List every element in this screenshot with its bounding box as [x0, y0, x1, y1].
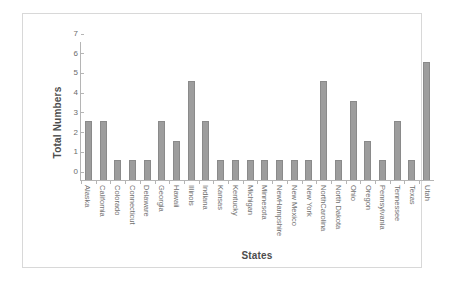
x-axis-tick-label-slot: Connecticut	[124, 183, 139, 247]
x-axis-tick-label-slot: Oregon	[360, 183, 375, 247]
x-axis-tick-label-slot: Tennessee	[390, 183, 405, 247]
y-axis-title-text: Total Numbers	[53, 86, 64, 158]
bar-slot	[331, 42, 346, 180]
x-axis-tick-label-slot: Georgia	[154, 183, 169, 247]
x-axis-tick-label: Hawaii	[172, 185, 180, 208]
x-axis-tick-label: Ohio	[349, 185, 357, 201]
y-axis-tick-label: 2	[74, 129, 81, 137]
x-axis-tick-label: Tennessee	[393, 185, 401, 221]
x-axis-tick-label: NewHampshire	[275, 185, 283, 236]
x-axis-tick-label: North Dakota	[334, 185, 342, 229]
x-axis-tick-label-slot: Illinois	[183, 183, 198, 247]
bar-slot	[316, 42, 331, 180]
y-axis-tick-mark	[81, 34, 84, 35]
x-axis-tick-label-slot: Michigan	[242, 183, 257, 247]
x-axis-tick-label: New Mexico	[290, 185, 298, 226]
x-axis-tick-label: Delaware	[143, 185, 151, 217]
x-axis-tick-label: California	[98, 185, 106, 217]
bar-slot	[140, 42, 155, 180]
x-axis-tick-label-slot: Utah	[419, 183, 434, 247]
bar-slot	[360, 42, 375, 180]
bar	[173, 141, 180, 180]
x-axis-tick-label-slot: Colorado	[110, 183, 125, 247]
bar	[114, 160, 121, 180]
bar-slot	[169, 42, 184, 180]
y-axis-tick: 5	[74, 69, 81, 77]
x-axis-tick-label: Connecticut	[128, 185, 136, 225]
x-axis-tick-label-slot: NorthCarolina	[316, 183, 331, 247]
bar	[408, 160, 415, 180]
bar-slot	[110, 42, 125, 180]
x-axis-tick-label-slot: Minnesota	[257, 183, 272, 247]
bar-slot	[257, 42, 272, 180]
y-axis-title: Total Numbers	[47, 70, 69, 174]
x-axis-tick-label: Oregon	[364, 185, 372, 210]
x-axis-title: States	[80, 250, 434, 261]
bar	[202, 121, 209, 180]
x-axis-tick-label: Georgia	[157, 185, 165, 212]
x-axis-tick-label: Indiana	[202, 185, 210, 210]
bar	[247, 160, 254, 180]
bar-slot	[346, 42, 361, 180]
bar	[188, 81, 195, 180]
x-axis-tick-label-slot: New York	[301, 183, 316, 247]
y-axis-tick: 6	[74, 50, 81, 58]
x-axis-tick-label-slot: California	[95, 183, 110, 247]
y-axis-tick: 7	[74, 30, 81, 38]
x-axis-tick-label: Pennsylvania	[379, 185, 387, 230]
y-axis-tick: 1	[74, 148, 81, 156]
bar-slot	[184, 42, 199, 180]
x-axis-tick-label-slot: Ohio	[346, 183, 361, 247]
bar	[85, 121, 92, 180]
plot-area: 01234567	[80, 42, 434, 181]
y-axis-tick: 0	[74, 168, 81, 176]
bar-slot	[375, 42, 390, 180]
x-axis-tick-label-slot: Alaska	[80, 183, 95, 247]
x-axis-tick-label: Kansas	[216, 185, 224, 210]
bar	[129, 160, 136, 180]
y-axis-tick-label: 0	[74, 168, 81, 176]
x-axis-tick-label-slot: Delaware	[139, 183, 154, 247]
bar	[350, 101, 357, 180]
bar	[100, 121, 107, 180]
bar-slot	[404, 42, 419, 180]
bar-slot	[81, 42, 96, 180]
figure-frame: Total Numbers 01234567 AlaskaCaliforniaC…	[22, 13, 422, 268]
y-axis-tick-label: 1	[74, 148, 81, 156]
x-axis-tick-label-slot: Pennsylvania	[375, 183, 390, 247]
bar	[364, 141, 371, 180]
x-axis-tick-label-slot: Kentucky	[228, 183, 243, 247]
x-axis-tick-labels: AlaskaCaliforniaColoradoConnecticutDelaw…	[80, 183, 434, 247]
bar-slot	[390, 42, 405, 180]
y-axis-tick: 3	[74, 109, 81, 117]
bar-slot	[287, 42, 302, 180]
x-axis-tick-label-slot: New Mexico	[287, 183, 302, 247]
x-axis-tick-label: Texas	[408, 185, 416, 205]
bar	[423, 62, 430, 180]
y-axis-tick-label: 3	[74, 109, 81, 117]
bar-slot	[243, 42, 258, 180]
bar-slot	[228, 42, 243, 180]
x-axis-tick-label-slot: Hawaii	[169, 183, 184, 247]
bar	[217, 160, 224, 180]
x-axis-tick-label: Kentucky	[231, 185, 239, 216]
x-axis-tick-label-slot: NewHampshire	[272, 183, 287, 247]
bar	[335, 160, 342, 180]
x-axis-tick-label-slot: North Dakota	[331, 183, 346, 247]
bar	[261, 160, 268, 180]
x-axis-tick-label: Michigan	[246, 185, 254, 215]
bar-slot	[419, 42, 434, 180]
x-axis-tick-label-slot: Texas	[405, 183, 420, 247]
y-axis-tick-label: 7	[74, 30, 81, 38]
bar	[291, 160, 298, 180]
bar-slot	[272, 42, 287, 180]
bar-slot	[96, 42, 111, 180]
x-axis-tick-label-slot: Indiana	[198, 183, 213, 247]
bar-slot	[199, 42, 214, 180]
x-axis-tick-label: NorthCarolina	[320, 185, 328, 231]
bar-slot	[213, 42, 228, 180]
x-axis-tick-label: Utah	[423, 185, 431, 201]
bar	[394, 121, 401, 180]
bar	[305, 160, 312, 180]
bar	[232, 160, 239, 180]
